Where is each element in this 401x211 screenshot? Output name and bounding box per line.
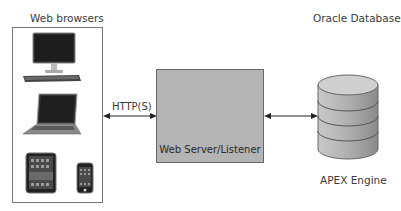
web-server-listener-label: Web Server/Listener [157,144,263,155]
laptop-icon [19,92,85,138]
web-browsers-group [12,27,103,203]
tablet-icon [25,152,57,194]
smartphone-icon [76,162,94,194]
bidirectional-arrow-server-database [264,111,318,121]
web-browsers-title: Web browsers [30,12,104,24]
database-cylinder-icon [316,73,380,161]
oracle-database-title: Oracle Database [313,12,401,24]
apex-engine-label: APEX Engine [320,174,387,186]
bidirectional-arrow-browsers-server [103,111,157,121]
web-server-listener-box: Web Server/Listener [156,69,264,163]
desktop-computer-icon [21,32,85,84]
